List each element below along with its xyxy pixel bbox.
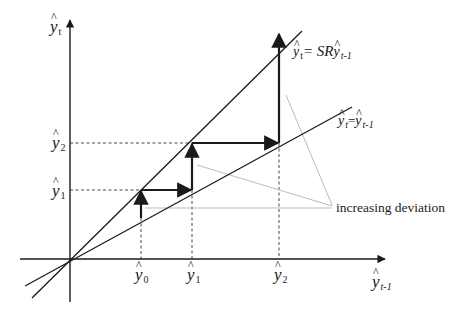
increasing-deviation-label: increasing deviation [336,201,445,215]
x-axis-label-sub: t-1 [381,281,392,292]
steep-line-sr [32,31,302,298]
x-tick-y1: y1 [187,266,201,285]
steep-rhs-sub: t-1 [341,50,352,61]
callout-line-2 [197,165,332,206]
y-axis-label: yt [50,18,61,37]
y-tick-y1-sub: 1 [61,190,66,201]
x-tick-y2: y2 [274,266,288,285]
y-axis-label-base: y [50,18,58,35]
steep-rhs-base: y [334,45,340,59]
diag-rhs-base: y [355,114,361,128]
y-tick-y1: y1 [52,182,66,201]
x-tick-y0-base: y [135,266,143,283]
callout-line-3 [286,95,332,205]
x-axis-label: yt-1 [372,273,392,292]
x-tick-y1-sub: 1 [196,274,201,285]
diagonal-line-label: yt=yt-1 [338,112,374,130]
staircase-arrows [141,34,279,218]
steep-lhs-base: y [293,45,299,59]
dashed-guides [70,143,279,259]
x-tick-y0-sub: 0 [144,274,149,285]
diagram-canvas [0,0,453,316]
y-tick-y2-base: y [52,134,60,151]
axes [20,20,385,302]
x-tick-y2-sub: 2 [283,274,288,285]
x-axis-label-base: y [372,273,380,290]
x-tick-y0: y0 [135,266,149,285]
diag-lhs-base: y [338,114,344,128]
diag-rhs-sub: t-1 [363,119,374,130]
steep-line-label: yt= SRyt-1 [293,43,352,61]
steep-eq: = SR [303,43,334,59]
y-tick-y2-sub: 2 [61,142,66,153]
x-tick-y2-base: y [274,266,282,283]
x-tick-y1-base: y [187,266,195,283]
y-axis-label-sub: t [59,26,62,37]
y-tick-y2: y2 [52,134,66,153]
y-tick-y1-base: y [52,182,60,199]
